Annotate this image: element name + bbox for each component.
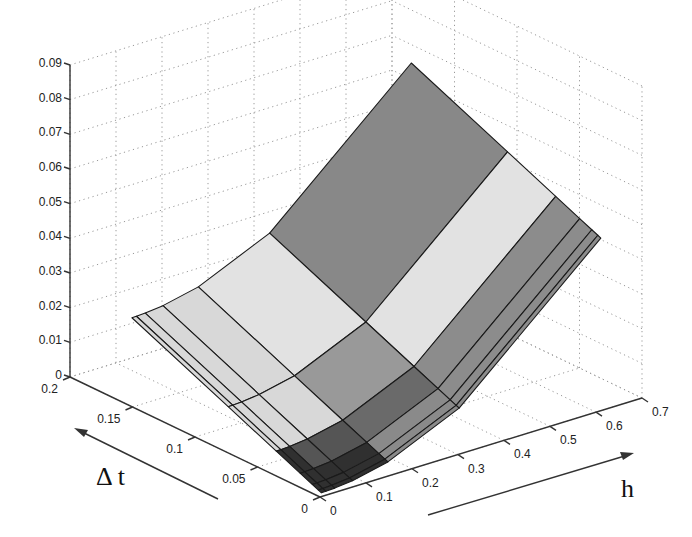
h-tick bbox=[550, 426, 556, 430]
h-tick bbox=[504, 440, 510, 444]
z-tick-label: 0 bbox=[55, 368, 62, 382]
z-tick bbox=[64, 98, 70, 100]
z-tick bbox=[64, 375, 70, 377]
h-tick-label: 0.5 bbox=[560, 433, 577, 447]
h-tick bbox=[596, 412, 602, 416]
h-tick bbox=[366, 483, 372, 487]
z-tick-label: 0.05 bbox=[39, 195, 63, 209]
h-tick-label: 0.6 bbox=[606, 419, 623, 433]
dt-tick-label: 0.15 bbox=[97, 412, 121, 426]
dt-axis-title: Δ t bbox=[96, 462, 126, 491]
z-tick-label: 0.01 bbox=[39, 333, 63, 347]
dt-tick bbox=[63, 377, 70, 380]
z-tick bbox=[64, 271, 70, 273]
z-tick bbox=[64, 306, 70, 308]
dt-tick bbox=[188, 437, 195, 440]
grid-line bbox=[70, 1, 392, 100]
grid-line bbox=[70, 35, 392, 134]
h-tick-label: 0 bbox=[330, 504, 337, 518]
dt-tick bbox=[313, 497, 320, 500]
z-tick bbox=[64, 63, 70, 65]
grid-line bbox=[392, 0, 642, 86]
grid-line bbox=[70, 0, 392, 65]
dt-tick bbox=[251, 467, 258, 470]
h-tick-label: 0.2 bbox=[422, 476, 439, 490]
z-tick-label: 0.02 bbox=[39, 299, 63, 313]
z-tick-label: 0.08 bbox=[39, 91, 63, 105]
z-tick bbox=[64, 202, 70, 204]
z-tick bbox=[64, 167, 70, 169]
dt-tick-label: 0.05 bbox=[222, 472, 246, 486]
h-tick-label: 0.4 bbox=[514, 447, 531, 461]
h-tick-label: 0.1 bbox=[376, 490, 393, 504]
dt-tick-label: 0.1 bbox=[166, 442, 183, 456]
z-tick-label: 0.06 bbox=[39, 160, 63, 174]
h-tick bbox=[642, 398, 648, 402]
z-tick-label: 0.04 bbox=[39, 229, 63, 243]
h-tick bbox=[412, 469, 418, 473]
z-tick bbox=[64, 340, 70, 342]
h-axis-arrow bbox=[428, 452, 634, 515]
h-tick bbox=[320, 497, 326, 501]
h-axis-title: h bbox=[621, 474, 634, 503]
surface-plot: 00.10.20.30.40.50.60.700.050.10.150.200.… bbox=[0, 0, 692, 537]
z-tick bbox=[64, 132, 70, 134]
dt-tick-label: 0 bbox=[301, 502, 308, 516]
z-tick-label: 0.03 bbox=[39, 264, 63, 278]
dt-tick-label: 0.2 bbox=[41, 382, 58, 396]
h-tick-label: 0.3 bbox=[468, 462, 485, 476]
dt-tick bbox=[126, 407, 133, 410]
surface-mesh bbox=[132, 63, 601, 493]
z-tick bbox=[64, 236, 70, 238]
z-tick-label: 0.07 bbox=[39, 125, 63, 139]
z-tick-label: 0.09 bbox=[39, 56, 63, 70]
h-tick-label: 0.7 bbox=[652, 405, 669, 419]
h-tick bbox=[458, 455, 464, 459]
